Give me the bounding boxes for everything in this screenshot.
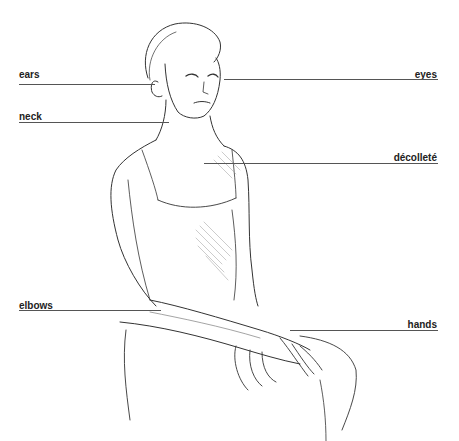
label-ears: ears bbox=[19, 70, 40, 80]
leader-line-ears bbox=[19, 84, 155, 85]
leader-line-hands bbox=[290, 330, 438, 331]
leader-line-eyes bbox=[224, 79, 438, 80]
leader-line-elbows bbox=[19, 310, 161, 311]
leader-line-decollete bbox=[204, 163, 438, 164]
label-hands: hands bbox=[408, 320, 437, 330]
leader-line-neck bbox=[19, 122, 169, 123]
seated-woman-illustration bbox=[0, 0, 459, 441]
label-neck: neck bbox=[19, 112, 42, 122]
label-decollete: décolleté bbox=[394, 153, 437, 163]
